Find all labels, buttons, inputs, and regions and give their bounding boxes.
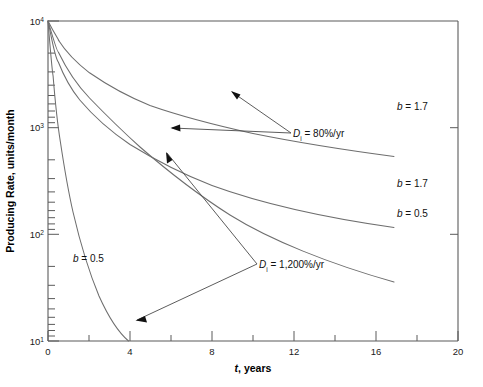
- y-axis-tick-labels: 104 103 102 101: [30, 15, 45, 347]
- y-axis-right-ticks: [450, 128, 458, 235]
- y-tick-label-1000: 103: [30, 122, 45, 134]
- leader-di80: [171, 91, 292, 133]
- series-label-di1200-b17: b = 1.7: [397, 178, 428, 189]
- figure-container: 104 103 102 101: [0, 0, 483, 387]
- decline-curve-chart: 104 103 102 101: [0, 0, 483, 387]
- curve-di1200-b17: [48, 21, 394, 228]
- x-tick-label-0: 0: [45, 346, 50, 357]
- leader-di1200: [136, 152, 258, 323]
- x-tick-label-8: 8: [209, 346, 214, 357]
- y-axis-ticks: [48, 21, 59, 341]
- y-tick-label-100: 102: [30, 228, 45, 240]
- series-label-di1200-b05: b = 0.5: [73, 253, 104, 264]
- series-label-di80-b17: b = 1.7: [397, 101, 428, 112]
- y-axis-title: Producing Rate, units/month: [4, 109, 16, 253]
- curve-di80-b05: [48, 21, 394, 282]
- x-tick-label-4: 4: [127, 346, 132, 357]
- x-axis-ticks: [48, 331, 458, 341]
- x-tick-label-16: 16: [371, 346, 382, 357]
- annotation-di-1200: Di = 1,200%/yr: [259, 259, 325, 273]
- y-tick-label-10: 101: [30, 335, 45, 347]
- annotation-di-80: Di = 80%/yr: [293, 128, 345, 142]
- series-label-di80-b05: b = 0.5: [397, 208, 428, 219]
- x-tick-label-12: 12: [289, 346, 300, 357]
- x-tick-label-20: 20: [453, 346, 464, 357]
- curve-di1200-b05: [48, 21, 129, 341]
- y-tick-label-10000: 104: [30, 15, 45, 27]
- x-axis-title: t, years: [235, 362, 272, 374]
- x-axis-tick-labels: 0 4 8 12 16 20: [45, 346, 463, 357]
